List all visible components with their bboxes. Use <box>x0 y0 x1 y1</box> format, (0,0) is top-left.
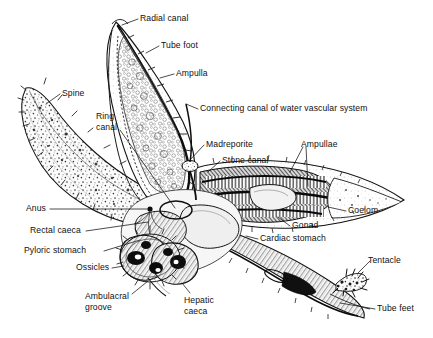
gonad-shape <box>250 185 296 211</box>
label-madreporite: Madreporite <box>206 139 253 150</box>
label-anus: Anus <box>26 203 46 214</box>
madreporite-shape <box>182 161 198 172</box>
radial-canal-leader <box>122 19 138 25</box>
label-ambulacral-groove: Ambulacral groove <box>85 291 129 312</box>
label-radial-canal: Radial canal <box>140 13 189 24</box>
label-ampulla: Ampulla <box>176 68 208 79</box>
label-ampullae: Ampullae <box>301 139 338 150</box>
spine-leader <box>46 94 60 104</box>
label-pyloric-stomach: Pyloric stomach <box>24 245 86 256</box>
label-gonad: Gonad <box>292 220 318 231</box>
tube-foot-leader <box>146 46 159 53</box>
label-stone-canal: Stone canal <box>222 155 269 166</box>
anus-shape <box>147 206 152 211</box>
label-spine: Spine <box>62 88 84 99</box>
ampulla-leader <box>160 74 174 78</box>
sea-star-illustration <box>0 0 433 338</box>
label-coelom: Coelom <box>348 205 378 216</box>
label-rectal-caeca: Rectal caeca <box>30 225 81 236</box>
label-cardiac-stomach: Cardiac stomach <box>260 233 326 244</box>
connecting-canal-leader <box>186 104 198 109</box>
label-ring-canal: Ring canal <box>96 111 117 132</box>
ambulacral-groove-leader <box>132 281 148 294</box>
label-hepatic-caeca: Hepatic caeca <box>184 295 214 316</box>
label-ossicles: Ossicles <box>76 262 109 273</box>
hepatic-caeca-leader <box>182 283 190 293</box>
label-tentacle: Tentacle <box>368 255 401 266</box>
sea-star-anatomy-figure: Radial canalTube footAmpullaSpineConnect… <box>0 0 433 338</box>
label-connecting-canal: Connecting canal of water vascular syste… <box>200 103 367 114</box>
label-tube-feet: Tube feet <box>377 303 414 314</box>
label-tube-foot: Tube foot <box>161 40 198 51</box>
